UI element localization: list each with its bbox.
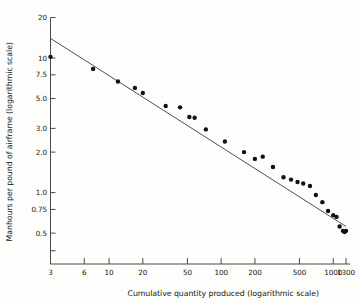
- x-tick-label-0: 3: [48, 268, 52, 277]
- x-tick-label-1: 6: [82, 268, 87, 277]
- x-tick-label-5: 100: [214, 268, 228, 277]
- x-tick-label-4: 50: [183, 268, 192, 277]
- fitted-trend-line: [51, 38, 347, 226]
- data-point-19: [308, 184, 312, 188]
- x-tick-label-7: 500: [293, 268, 307, 277]
- y-tick-label-5: 2.0: [36, 148, 48, 157]
- data-point-12: [253, 157, 257, 161]
- data-point-0: [48, 55, 52, 59]
- data-point-11: [242, 150, 246, 154]
- x-tick-label-3: 20: [138, 268, 147, 277]
- learning-curve-chart: 20107.55.03.02.01.00.750.536102050100200…: [0, 0, 359, 303]
- data-point-2: [116, 79, 120, 83]
- data-point-1: [91, 67, 95, 71]
- data-point-21: [320, 200, 324, 204]
- chart-svg: 20107.55.03.02.01.00.750.536102050100200…: [0, 0, 359, 303]
- y-tick-label-4: 3.0: [36, 124, 48, 133]
- x-axis-label: Cumulative quantity produced (logarithmi…: [128, 289, 319, 298]
- y-tick-label-6: 1.0: [36, 188, 48, 197]
- x-tick-label-2: 10: [105, 268, 114, 277]
- data-point-3: [133, 86, 137, 90]
- data-point-7: [187, 115, 191, 119]
- data-point-25: [337, 224, 341, 228]
- y-axis-label: Manhours per pound of airframe (logarith…: [5, 42, 14, 241]
- data-point-6: [178, 105, 182, 109]
- y-tick-label-1: 10: [38, 54, 47, 63]
- y-tick-label-2: 7.5: [36, 70, 47, 79]
- data-point-28: [344, 229, 348, 233]
- x-tick-label-6: 200: [248, 268, 262, 277]
- data-point-20: [314, 193, 318, 197]
- data-point-14: [271, 165, 275, 169]
- y-tick-label-8: 0.5: [36, 229, 47, 238]
- data-point-4: [141, 91, 145, 95]
- data-point-5: [164, 104, 168, 108]
- data-point-17: [295, 180, 299, 184]
- data-point-15: [281, 175, 285, 179]
- data-point-22: [326, 209, 330, 213]
- y-tick-label-0: 20: [38, 13, 47, 22]
- data-point-18: [301, 181, 305, 185]
- plot-area: 20107.55.03.02.01.00.750.536102050100200…: [5, 13, 355, 298]
- data-point-24: [334, 215, 338, 219]
- y-tick-label-7: 0.75: [31, 205, 47, 214]
- data-point-10: [223, 139, 227, 143]
- data-point-16: [289, 177, 293, 181]
- x-tick-label-9: 1300: [337, 268, 355, 277]
- y-tick-label-3: 5.0: [36, 94, 48, 103]
- data-point-9: [204, 127, 208, 131]
- data-point-13: [261, 154, 265, 158]
- data-point-8: [192, 116, 196, 120]
